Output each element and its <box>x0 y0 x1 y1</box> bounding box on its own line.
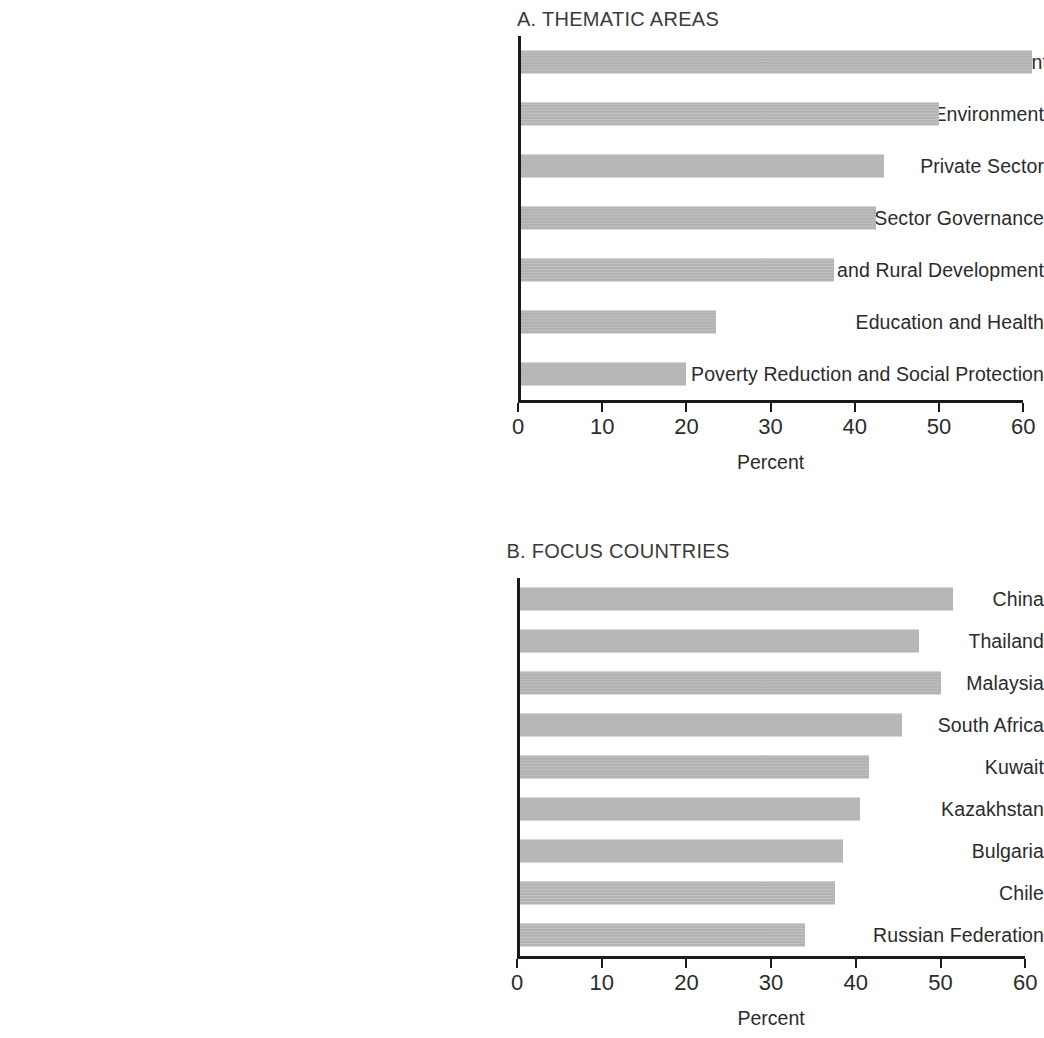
bar-row: Agriculture and Rural Development <box>0 244 1044 296</box>
bar-row: Russian Federation <box>0 914 1044 956</box>
x-tick-mark <box>516 959 518 968</box>
bar <box>517 714 902 737</box>
x-tick-mark <box>938 403 940 412</box>
bar <box>517 882 835 905</box>
bar <box>518 207 876 230</box>
x-tick-mark <box>517 403 519 412</box>
x-tick-mark <box>855 959 857 968</box>
panel-a-plot-area: Financial Sector Development and Financi… <box>0 36 1044 416</box>
panel-a-bar-rows: Financial Sector Development and Financi… <box>0 36 1044 400</box>
bar <box>517 756 869 779</box>
bar <box>517 672 941 695</box>
x-tick-label: 40 <box>844 970 868 996</box>
panel-a-x-ticks: 0102030405060 <box>0 403 1044 449</box>
bar-row: Education and Health <box>0 296 1044 348</box>
panel-b-title: B. FOCUS COUNTRIES <box>0 540 1044 563</box>
panel-a-x-axis-label: Percent <box>737 451 804 474</box>
bar-row: Economic Policy and Public Sector Govern… <box>0 192 1044 244</box>
panel-b-y-axis-line <box>517 578 520 956</box>
x-tick-mark <box>770 403 772 412</box>
panel-a-title: A. THEMATIC AREAS <box>0 8 1044 31</box>
x-tick-mark <box>940 959 942 968</box>
bar-row: Financial Sector Development and Financi… <box>0 36 1044 88</box>
bar-row: Kuwait <box>0 746 1044 788</box>
bar-row: Kazakhstan <box>0 788 1044 830</box>
panel-b-x-axis-label: Percent <box>737 1007 804 1030</box>
bar <box>518 51 1032 74</box>
bar <box>518 259 834 282</box>
bar <box>518 103 939 126</box>
bar <box>517 798 860 821</box>
x-tick-mark <box>685 959 687 968</box>
x-tick-label: 60 <box>1011 414 1035 440</box>
panel-b-plot-area: ChinaThailandMalaysiaSouth AfricaKuwaitK… <box>0 578 1044 958</box>
bar-row: Private Sector <box>0 140 1044 192</box>
x-tick-label: 0 <box>512 414 524 440</box>
x-tick-label: 20 <box>674 970 698 996</box>
x-tick-mark <box>1022 403 1024 412</box>
bar-row: Chile <box>0 872 1044 914</box>
x-tick-mark <box>685 403 687 412</box>
bar <box>518 311 716 334</box>
x-tick-label: 10 <box>589 970 613 996</box>
x-tick-label: 0 <box>511 970 523 996</box>
panel-b-bar-rows: ChinaThailandMalaysiaSouth AfricaKuwaitK… <box>0 578 1044 956</box>
chart-panel-a: A. THEMATIC AREAS Financial Sector Devel… <box>0 0 1044 518</box>
bar-row: Poverty Reduction and Social Protection <box>0 348 1044 400</box>
x-tick-label: 10 <box>590 414 614 440</box>
bar <box>518 155 884 178</box>
bar <box>517 840 843 863</box>
x-tick-mark <box>854 403 856 412</box>
bar-row: Bulgaria <box>0 830 1044 872</box>
bar <box>517 588 953 611</box>
x-tick-mark <box>601 959 603 968</box>
panel-b-x-ticks: 0102030405060 <box>0 959 1044 1005</box>
x-tick-label: 20 <box>674 414 698 440</box>
x-tick-mark <box>770 959 772 968</box>
bar-row: Thailand <box>0 620 1044 662</box>
x-tick-label: 40 <box>843 414 867 440</box>
bar-row: Infrastructure, Urban Development and En… <box>0 88 1044 140</box>
bar-row: China <box>0 578 1044 620</box>
x-tick-label: 50 <box>927 414 951 440</box>
x-tick-label: 30 <box>758 414 782 440</box>
bar-row: South Africa <box>0 704 1044 746</box>
x-tick-label: 50 <box>928 970 952 996</box>
x-tick-label: 30 <box>759 970 783 996</box>
x-tick-mark <box>1024 959 1026 968</box>
bar <box>517 924 805 947</box>
bar-row: Malaysia <box>0 662 1044 704</box>
bar <box>517 630 919 653</box>
x-tick-mark <box>601 403 603 412</box>
panel-a-y-axis-line <box>518 36 521 400</box>
bar <box>518 363 686 386</box>
x-tick-label: 60 <box>1013 970 1037 996</box>
